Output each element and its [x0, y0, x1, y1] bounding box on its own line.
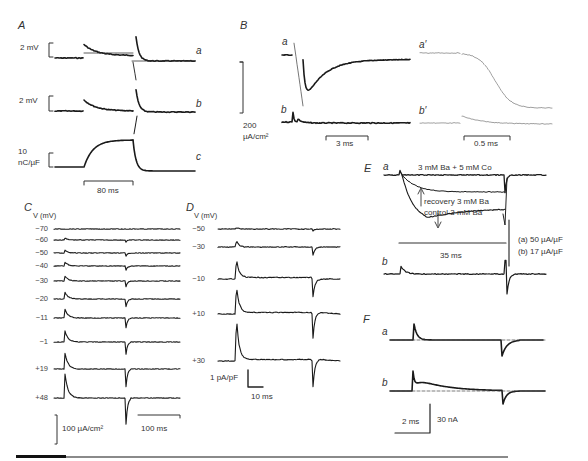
panel-e-trace-label-a: a [383, 162, 389, 172]
panel-b-trace-a-recovery [303, 59, 410, 90]
panel-a-trace-label-b: b [196, 99, 202, 109]
panel-a-trace-label-c: c [196, 152, 201, 162]
panel-f-time-scale: 2 ms [402, 418, 419, 426]
panel-d-amplitude-scale: 1 pA/pF [210, 374, 238, 382]
panel-c-trace [54, 331, 180, 355]
panel-d-voltage-label: +30 [175, 357, 205, 365]
panel-f-trace-label-a: a [382, 327, 388, 337]
panel-c-voltage-label: −70 [18, 225, 48, 233]
panel-c-trace [54, 250, 180, 256]
panel-b-trace-b [282, 112, 410, 123]
panel-d-voltage-label: −10 [175, 275, 205, 283]
panel-d-voltage-label: −50 [175, 225, 205, 233]
panel-a-trace-b-pre [55, 111, 83, 112]
panel-a-trace-a-recovery [136, 37, 195, 61]
panel-b-scale-value: 200 [243, 122, 256, 130]
figure-canvas [0, 0, 588, 461]
panel-b-trace-b-prime [462, 116, 552, 124]
panel-c-time-scale: 100 ms [141, 425, 167, 433]
panel-a-scale-bracket-a [49, 43, 53, 57]
panel-c-voltage-label: −40 [18, 262, 48, 270]
panel-a-trace-c-fall [133, 140, 195, 171]
panel-b-trace-label-b: b [281, 105, 287, 115]
panel-a-scale-c-line1: 10 [18, 148, 27, 156]
panel-a-trace-b-pulse [84, 100, 133, 111]
panel-a-time-scale: 80 ms [97, 187, 119, 195]
panel-f-trace-label-b: b [382, 378, 388, 388]
panel-d-voltage-label: +10 [175, 310, 205, 318]
panel-c-trace [54, 276, 180, 287]
panel-c-trace [54, 238, 180, 242]
page-footer-rule [16, 456, 508, 458]
page-footer-rule-accent [16, 455, 66, 458]
panel-c-trace [54, 374, 180, 424]
panel-a-trace-b-recovery [136, 90, 195, 113]
panel-c-trace [54, 262, 180, 270]
panel-c-voltage-label: −50 [18, 249, 48, 257]
panel-a-label: A [18, 20, 25, 31]
panel-b-trace-label-a: a [282, 37, 288, 47]
panel-b-time-scale-left: 3 ms [336, 140, 353, 148]
panel-e-scale-a: (a) 50 µA/µF [518, 236, 563, 244]
panel-c-voltage-label: −20 [18, 295, 48, 303]
panel-a-trace-a-off [133, 62, 136, 80]
panel-e-annotation-recovery: recovery 3 mM Ba [424, 198, 489, 206]
panel-a-trace-b-on [134, 116, 137, 134]
panel-e-trace-b [384, 260, 546, 294]
panel-c-voltage-label: −60 [18, 236, 48, 244]
panel-c-amplitude-scale-bar [55, 415, 57, 444]
panel-c-time-scale-bar [138, 415, 180, 418]
panel-f-label: F [363, 314, 370, 325]
panel-f-amplitude-scale: 30 nA [437, 416, 458, 424]
panel-c-voltage-label: −30 [18, 277, 48, 285]
panel-e-annotation-co: 3 mM Ba + 5 mM Co [418, 164, 492, 172]
panel-d-axis-label: V (mV) [194, 212, 217, 220]
panel-a-scale-b: 2 mV [19, 97, 38, 105]
panel-e-annotation-control: control 3 mM Ba [424, 209, 482, 217]
panel-a-scale-bracket-c [49, 153, 53, 167]
panel-c-trace [54, 309, 180, 328]
panel-b-trace-a-prime-pre [420, 53, 460, 54]
panel-c-trace [54, 353, 180, 386]
panel-d-label: D [186, 202, 194, 213]
panel-c-amplitude-scale: 100 µA/cm² [62, 425, 103, 433]
panel-b-time-scale-right: 0.5 ms [474, 140, 498, 148]
panel-c-voltage-label: +48 [18, 394, 48, 402]
panel-a-scale-a: 2 mV [20, 44, 39, 52]
panel-d-trace [218, 228, 340, 231]
panel-d-trace [218, 242, 340, 256]
panel-b-trace-label-b-prime: b′ [419, 106, 426, 116]
panel-a-trace-c-rise [84, 140, 133, 167]
panel-c-voltage-label: +19 [18, 365, 48, 373]
panel-b-label: B [240, 20, 247, 31]
panel-a-trace-label-a: a [196, 46, 202, 56]
panel-d-voltage-label: −30 [175, 243, 205, 251]
panel-b-trace-a-fall [294, 43, 303, 106]
panel-c-voltage-label: −1 [18, 338, 48, 346]
panel-c-voltage-label: −11 [18, 314, 48, 322]
panel-c-trace [54, 229, 180, 230]
panel-d-scale-bar [248, 370, 263, 387]
panel-c-trace [54, 292, 180, 306]
panel-f-trace-b [390, 371, 545, 404]
panel-b-trace-label-a-prime: a′ [419, 40, 426, 50]
panel-b-trace-a-pre [282, 55, 292, 56]
panel-d-time-scale: 10 ms [251, 393, 273, 401]
panel-b-scale-unit: µA/cm² [243, 133, 269, 141]
panel-e-trace-a-recovery [402, 175, 505, 192]
panel-e-time-scale: 35 ms [440, 252, 462, 260]
panel-c-axis-label: V (mV) [33, 212, 56, 220]
panel-a-scale-bracket-b [49, 96, 53, 111]
panel-a-trace-a-pre [55, 58, 83, 59]
panel-a-trace-a-pulse [84, 45, 133, 56]
panel-e-scale-b: (b) 17 µA/µF [518, 248, 563, 256]
panel-a-scale-c-line2: nC/µF [18, 159, 40, 167]
panel-b-scale-bracket [240, 62, 243, 113]
panel-e-label: E [364, 163, 371, 174]
panel-a-time-scale-bar [84, 181, 133, 185]
panel-b-trace-a-prime [462, 54, 552, 108]
panel-c-label: C [24, 202, 32, 213]
panel-e-trace-label-b: b [382, 257, 388, 267]
panel-b-trace-b-prime-pre [420, 123, 460, 124]
